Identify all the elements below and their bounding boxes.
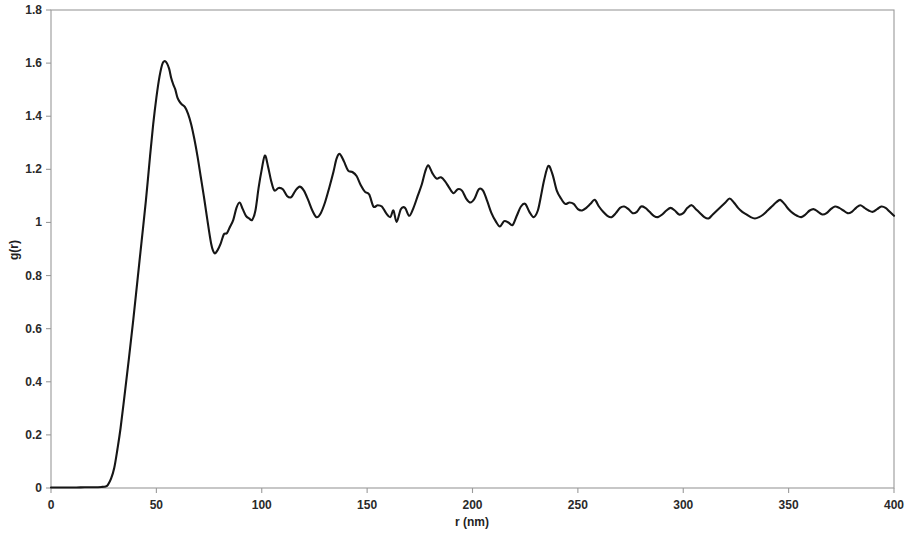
x-tick-label: 100 bbox=[252, 498, 272, 512]
x-tick-label: 350 bbox=[779, 498, 799, 512]
y-tick-label: 0.8 bbox=[25, 269, 42, 283]
radial-distribution-plot: 00.20.40.60.811.21.41.61.8 0501001502002… bbox=[0, 0, 913, 535]
x-axis-title: r (nm) bbox=[455, 515, 489, 529]
y-tick-label: 1 bbox=[35, 215, 42, 229]
x-tick-label: 150 bbox=[357, 498, 377, 512]
y-tick-label: 1.4 bbox=[25, 109, 42, 123]
y-tick-label: 0 bbox=[35, 481, 42, 495]
x-tick-label: 250 bbox=[568, 498, 588, 512]
y-tick-label: 1.6 bbox=[25, 56, 42, 70]
y-axis-ticks bbox=[46, 10, 51, 488]
x-tick-label: 0 bbox=[48, 498, 55, 512]
x-tick-label: 200 bbox=[462, 498, 482, 512]
chart-figure: 00.20.40.60.811.21.41.61.8 0501001502002… bbox=[0, 0, 913, 535]
y-tick-label: 1.8 bbox=[25, 3, 42, 17]
y-axis-title: g(r) bbox=[7, 240, 21, 260]
x-axis-tick-labels: 050100150200250300350400 bbox=[48, 498, 905, 512]
y-tick-label: 0.6 bbox=[25, 322, 42, 336]
y-tick-label: 0.4 bbox=[25, 375, 42, 389]
x-tick-label: 400 bbox=[884, 498, 904, 512]
plot-frame bbox=[51, 10, 894, 488]
gr-data-line bbox=[51, 61, 894, 487]
x-tick-label: 50 bbox=[150, 498, 164, 512]
y-tick-label: 0.2 bbox=[25, 428, 42, 442]
y-tick-label: 1.2 bbox=[25, 162, 42, 176]
x-tick-label: 300 bbox=[673, 498, 693, 512]
y-axis-tick-labels: 00.20.40.60.811.21.41.61.8 bbox=[25, 3, 42, 495]
x-axis-ticks bbox=[51, 488, 894, 493]
